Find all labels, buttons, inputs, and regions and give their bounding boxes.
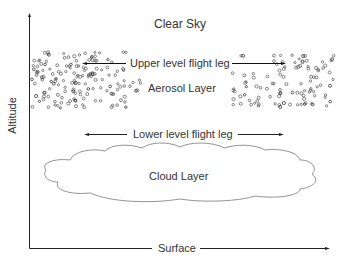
altitude-arrowhead-icon [28,13,31,17]
arrow-right-icon [279,133,284,136]
arrow-right-icon [281,62,286,65]
surface-arrowhead-icon [325,247,330,250]
lower-flight-leg-label: Lower level flight leg [131,129,235,140]
altitude-axis-label: Altitude [7,95,18,136]
arrow-left-icon [82,62,87,65]
aerosol-layer-label: Aerosol Layer [146,83,218,94]
surface-label: Surface [156,243,198,254]
cloud-layer-label: Cloud Layer [147,171,210,182]
upper-flight-leg-label: Upper level flight leg [128,58,232,69]
arrow-left-icon [84,133,89,136]
clear-sky-label: Clear Sky [152,18,208,30]
